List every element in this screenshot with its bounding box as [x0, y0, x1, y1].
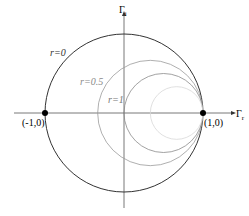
point-label-minus-one: (-1,0): [22, 117, 45, 129]
point-plus-one: [200, 110, 206, 116]
point-label-plus-one: (1,0): [204, 117, 223, 129]
horizontal-axis-label: Γr: [236, 108, 245, 122]
circle-label-r1: r=1: [108, 94, 124, 105]
smith-chart: (-1,0) (1,0) r=0 r=0.5 r=1 Γi Γr: [0, 0, 249, 216]
circle-label-r0: r=0: [50, 47, 66, 58]
circle-label-r05: r=0.5: [80, 76, 103, 87]
point-minus-one: [42, 110, 48, 116]
